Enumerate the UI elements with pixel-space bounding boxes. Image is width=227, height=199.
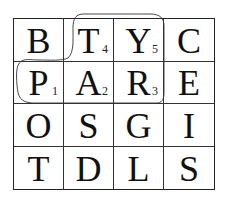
cell-r1-c1[interactable]: A2 — [64, 62, 114, 105]
cell-r2-c2[interactable]: G — [114, 104, 164, 147]
cell-r0-c0[interactable]: B — [14, 19, 64, 62]
cell-r0-c3[interactable]: C — [164, 19, 214, 62]
cell-r1-c3[interactable]: E — [164, 62, 214, 105]
cell-letter: D — [76, 151, 102, 187]
cell-r3-c0[interactable]: T — [14, 147, 64, 190]
cell-r1-c2[interactable]: R3 — [114, 62, 164, 105]
cell-letter: S — [179, 151, 199, 187]
cell-letter: C — [177, 23, 201, 59]
cell-letter: G — [126, 108, 152, 144]
cell-index: 1 — [52, 85, 58, 97]
cell-letter: P — [28, 65, 48, 101]
cell-letter: R — [126, 65, 150, 101]
cell-r0-c2[interactable]: Y5 — [114, 19, 164, 62]
cell-r3-c1[interactable]: D — [64, 147, 114, 190]
cell-letter: B — [26, 23, 50, 59]
letter-grid: B T4 Y5 C P1 A2 R3 E O S G I T D L S — [13, 18, 215, 190]
cell-r2-c1[interactable]: S — [64, 104, 114, 147]
cell-letter: T — [78, 23, 100, 59]
cell-letter: S — [78, 108, 98, 144]
cell-letter: Y — [126, 23, 152, 59]
cell-letter: T — [28, 151, 50, 187]
cell-index: 2 — [102, 85, 108, 97]
cell-index: 3 — [152, 85, 158, 97]
cell-r0-c1[interactable]: T4 — [64, 19, 114, 62]
cell-letter: E — [178, 65, 200, 101]
cell-letter: L — [128, 151, 150, 187]
cell-index: 5 — [152, 43, 158, 55]
cell-letter: O — [26, 108, 52, 144]
cell-r3-c3[interactable]: S — [164, 147, 214, 190]
cell-letter: A — [76, 65, 102, 101]
cell-r3-c2[interactable]: L — [114, 147, 164, 190]
cell-r2-c0[interactable]: O — [14, 104, 64, 147]
cell-r1-c0[interactable]: P1 — [14, 62, 64, 105]
cell-letter: I — [183, 108, 195, 144]
cell-index: 4 — [102, 43, 108, 55]
cell-r2-c3[interactable]: I — [164, 104, 214, 147]
